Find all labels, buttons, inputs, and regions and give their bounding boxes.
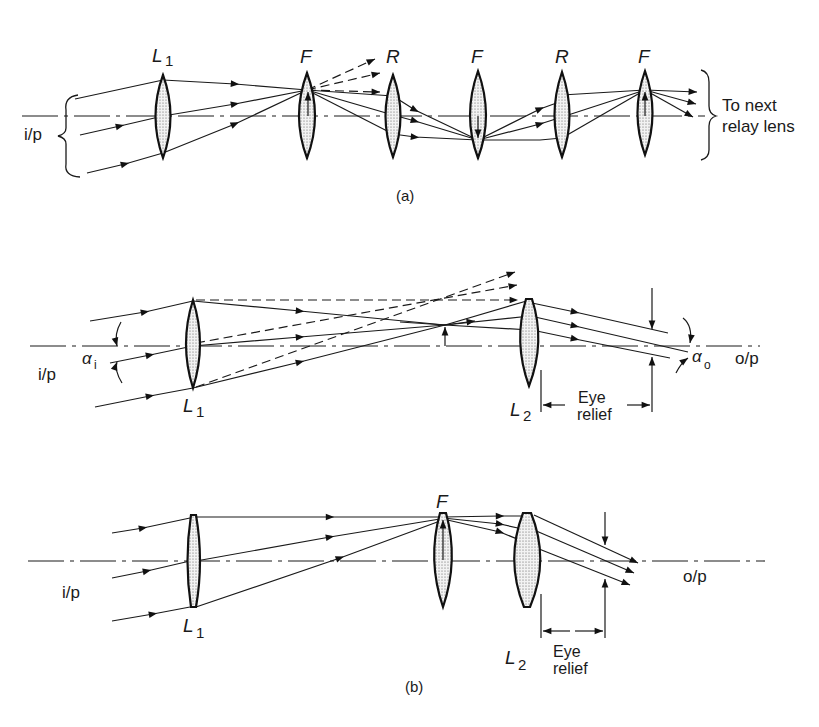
- caption-a: (a): [396, 187, 414, 204]
- lens-label: F: [436, 491, 449, 512]
- ray: [443, 516, 527, 517]
- lens-label: F: [471, 46, 484, 67]
- lens-l1: L 1: [183, 515, 204, 641]
- angle-arc-icon: [116, 362, 122, 383]
- field-lens-1: F: [299, 46, 315, 158]
- input-label: i/p: [62, 583, 80, 602]
- angle-out-subscript: o: [704, 358, 711, 372]
- dashed-ray: [307, 73, 380, 90]
- lens-label: R: [386, 46, 400, 67]
- lens-subscript: 1: [196, 624, 204, 641]
- lens-label: L: [510, 399, 521, 420]
- ray: [307, 90, 393, 134]
- ray: [393, 134, 478, 140]
- ray: [110, 346, 193, 363]
- lens-label: F: [638, 46, 651, 67]
- eye-relief-label: relief: [577, 406, 612, 423]
- ray: [163, 80, 307, 90]
- lens-label: R: [555, 46, 569, 67]
- lens-subscript: 1: [196, 403, 204, 420]
- lens-label: L: [505, 647, 516, 668]
- ray: [163, 90, 307, 153]
- ray: [112, 561, 190, 578]
- angle-arc-icon: [676, 358, 688, 373]
- optics-figure: i/p L 1: [0, 0, 819, 727]
- ray: [193, 325, 445, 388]
- ray: [534, 515, 638, 563]
- lens-label: L: [183, 615, 194, 636]
- output-label: o/p: [735, 349, 759, 368]
- relay-lens-1: R: [386, 46, 401, 157]
- lens-label: L: [183, 395, 194, 416]
- lens-subscript: 1: [165, 52, 173, 69]
- lens-subscript: 2: [523, 407, 531, 424]
- ray: [90, 301, 193, 321]
- lens-l1: L 1: [183, 300, 204, 420]
- ray: [478, 138, 562, 140]
- diagram-a-relay-system: i/p L 1: [22, 45, 795, 204]
- lens-label: L: [152, 45, 163, 66]
- ray: [80, 116, 163, 135]
- dashed-ray: [196, 285, 517, 343]
- angle-arc-icon: [116, 322, 121, 346]
- input-label: i/p: [38, 365, 56, 384]
- input-label: i/p: [24, 125, 42, 144]
- ray: [532, 330, 670, 358]
- angle-in-symbol: α: [82, 349, 93, 368]
- field-lens-3: F: [638, 46, 653, 155]
- ray: [112, 518, 190, 533]
- eye-relief-label: relief: [553, 660, 588, 677]
- angle-in-subscript: i: [94, 358, 97, 372]
- ray: [307, 90, 393, 115]
- diagram-b-top-telescope: i/p α i L 1: [30, 272, 760, 424]
- ray: [562, 90, 645, 138]
- output-label: o/p: [683, 567, 707, 586]
- lens-label: F: [300, 46, 313, 67]
- caption-b: (b): [405, 678, 423, 695]
- lens-l1: L 1: [152, 45, 173, 158]
- lens-l2: L 2: [505, 513, 540, 673]
- eye-relief-label: Eye: [578, 389, 606, 406]
- output-label: relay lens: [722, 117, 795, 136]
- lens-subscript: 2: [518, 656, 526, 673]
- ray: [445, 300, 530, 325]
- ray: [95, 388, 193, 407]
- field-lens: F: [434, 491, 452, 607]
- input-brace-icon: [58, 95, 80, 177]
- output-brace-icon: [701, 70, 716, 160]
- dashed-ray: [307, 59, 375, 90]
- angle-out-symbol: α: [692, 347, 703, 366]
- ray: [163, 90, 307, 116]
- ray: [196, 521, 440, 607]
- field-lens-2: F: [470, 46, 486, 158]
- ray: [87, 153, 163, 173]
- ray: [112, 607, 190, 621]
- ray: [445, 316, 530, 325]
- ray: [196, 519, 440, 561]
- angle-arc-icon: [683, 318, 691, 343]
- ray: [445, 325, 530, 330]
- output-label: To next: [722, 96, 777, 115]
- ray: [532, 303, 668, 333]
- dashed-ray: [196, 272, 515, 387]
- eye-relief-label: Eye: [553, 643, 581, 660]
- relay-lens-2: R: [555, 46, 570, 157]
- ray: [478, 117, 562, 140]
- diagram-b-bottom-telescope-field-lens: i/p L 1 F L 2: [28, 491, 765, 695]
- ray: [75, 80, 163, 99]
